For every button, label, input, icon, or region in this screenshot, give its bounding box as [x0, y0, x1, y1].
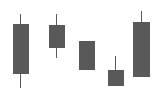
- candlestick-chart: [0, 0, 155, 104]
- candlestick-5: [0, 0, 155, 104]
- chart-plot-area: [0, 0, 155, 104]
- candlestick-body-5: [133, 22, 150, 77]
